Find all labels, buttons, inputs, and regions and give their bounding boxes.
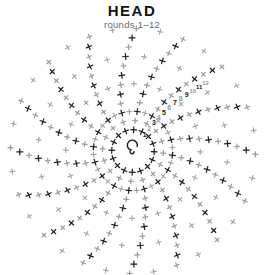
stitch-icon bbox=[26, 152, 32, 158]
stitch-icon bbox=[83, 208, 93, 218]
crochet-chart: 123456789101112 bbox=[0, 0, 264, 275]
stitch-icon bbox=[142, 195, 149, 202]
stitch-icon bbox=[143, 82, 150, 89]
stitch-icon bbox=[133, 108, 140, 115]
increase-stitch-icon bbox=[109, 27, 116, 34]
stitch-icon bbox=[99, 146, 105, 152]
increase-stitch-icon bbox=[192, 122, 200, 130]
stitch-icon bbox=[109, 124, 117, 132]
increase-stitch-icon bbox=[38, 173, 45, 180]
stitch-icon bbox=[139, 233, 146, 240]
stitch-icon bbox=[63, 186, 72, 195]
increase-stitch-icon bbox=[83, 230, 91, 238]
stitch-icon bbox=[108, 147, 115, 154]
stitch-icon bbox=[63, 160, 70, 167]
increase-stitch-icon bbox=[250, 127, 257, 134]
increase-stitch-icon bbox=[126, 108, 133, 115]
increase-stitch-icon bbox=[67, 120, 75, 128]
stitch-icon bbox=[90, 143, 97, 150]
stitch-icon bbox=[125, 44, 131, 50]
stitch-icon bbox=[54, 158, 62, 166]
stitch-icon bbox=[85, 53, 93, 61]
stitch-icon bbox=[173, 261, 181, 269]
increase-stitch-icon bbox=[25, 212, 33, 220]
stitch-icon bbox=[179, 35, 187, 43]
stitch-icon bbox=[186, 134, 194, 142]
increase-stitch-icon bbox=[54, 205, 62, 213]
increase-stitch-icon bbox=[167, 159, 175, 167]
stitch-icon bbox=[171, 231, 180, 240]
round-label: 5 bbox=[162, 109, 166, 116]
increase-stitch-icon bbox=[98, 121, 106, 129]
stitch-icon bbox=[204, 106, 212, 114]
increase-stitch-icon bbox=[159, 172, 167, 180]
stitch-icon bbox=[213, 236, 221, 244]
stitch-icon bbox=[84, 42, 93, 51]
increase-stitch-icon bbox=[118, 242, 125, 249]
round-label: 9 bbox=[185, 91, 189, 98]
stitch-icon bbox=[55, 128, 63, 136]
increase-stitch-icon bbox=[131, 81, 137, 87]
stitch-icon bbox=[143, 162, 153, 172]
stitch-icon bbox=[114, 131, 124, 141]
stitch-icon bbox=[45, 58, 53, 66]
increase-stitch-icon bbox=[224, 159, 231, 166]
stitch-icon bbox=[177, 178, 186, 187]
increase-stitch-icon bbox=[102, 209, 110, 217]
stitch-icon bbox=[99, 237, 108, 246]
round-label: 4 bbox=[157, 114, 161, 121]
stitch-icon bbox=[72, 137, 80, 145]
stitch-icon bbox=[141, 204, 149, 212]
stitch-icon bbox=[156, 161, 164, 169]
stitch-icon bbox=[190, 192, 200, 202]
stitch-icon bbox=[212, 171, 219, 178]
stitch-icon bbox=[171, 42, 180, 51]
stitch-icon bbox=[224, 140, 231, 147]
increase-stitch-icon bbox=[104, 85, 112, 93]
round-label: 3 bbox=[152, 119, 156, 126]
stitch-icon bbox=[72, 159, 80, 167]
stitch-icon bbox=[52, 76, 60, 84]
stitch-icon bbox=[190, 74, 200, 84]
stitch-icon bbox=[49, 227, 59, 237]
stitch-icon bbox=[208, 65, 218, 75]
stitch-icon bbox=[81, 179, 90, 188]
stitch-icon bbox=[118, 109, 126, 117]
round-label: 8 bbox=[179, 95, 183, 102]
increase-stitch-icon bbox=[111, 112, 119, 120]
increase-stitch-icon bbox=[103, 177, 111, 185]
increase-stitch-icon bbox=[203, 88, 211, 96]
stitch-icon bbox=[100, 157, 108, 165]
stitch-icon bbox=[16, 148, 23, 155]
stitch-icon bbox=[81, 141, 88, 148]
stitch-icon bbox=[218, 63, 226, 71]
stitch-icon bbox=[93, 245, 101, 253]
round-label: 6 bbox=[167, 104, 171, 111]
increase-stitch-icon bbox=[133, 187, 140, 194]
stitch-icon bbox=[178, 154, 185, 161]
stitch-icon bbox=[241, 197, 249, 205]
stitch-icon bbox=[129, 169, 136, 176]
stitch-icon bbox=[243, 103, 251, 111]
stitch-icon bbox=[215, 138, 222, 145]
increase-stitch-icon bbox=[67, 172, 75, 180]
stitch-icon bbox=[134, 252, 140, 258]
stitch-icon bbox=[184, 185, 192, 193]
stitch-icon bbox=[106, 167, 114, 175]
stitch-icon bbox=[176, 113, 185, 122]
stitch-icon bbox=[195, 161, 202, 168]
stitch-icon bbox=[91, 202, 99, 210]
increase-stitch-icon bbox=[91, 135, 99, 143]
round-label: 12 bbox=[202, 80, 209, 86]
stitch-icon bbox=[139, 176, 147, 184]
magic-ring-icon bbox=[127, 140, 137, 153]
stitch-icon bbox=[163, 165, 172, 174]
stitch-icon bbox=[153, 65, 160, 72]
stitch-icon bbox=[173, 251, 182, 260]
round-label: 2 bbox=[147, 125, 151, 132]
increase-stitch-icon bbox=[156, 85, 164, 93]
stitch-icon bbox=[39, 117, 48, 126]
increase-stitch-icon bbox=[90, 151, 97, 158]
stitch-icon bbox=[199, 70, 207, 78]
stitch-icon bbox=[72, 183, 80, 191]
